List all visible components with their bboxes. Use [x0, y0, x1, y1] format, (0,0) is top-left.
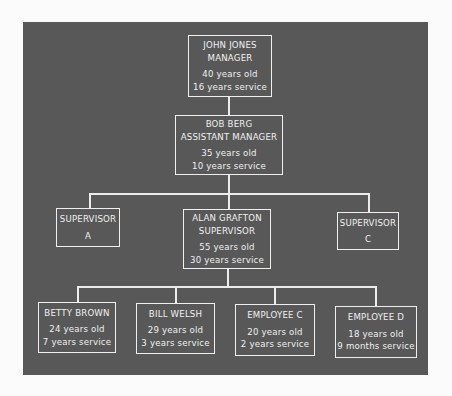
node-service: 16 years service: [193, 81, 267, 94]
connector-drop-bill: [175, 286, 177, 303]
node-employee-d: EMPLOYEE D 18 years old 9 months service: [335, 306, 417, 358]
node-age: 40 years old: [202, 68, 258, 81]
node-employee-c: EMPLOYEE C 20 years old 2 years service: [235, 304, 315, 356]
node-service: 9 months service: [337, 340, 414, 353]
node-age: 20 years old: [247, 326, 303, 339]
node-name: EMPLOYEE C: [247, 309, 303, 322]
node-title: ASSISTANT MANAGER: [181, 131, 278, 144]
node-service: 30 years service: [190, 254, 264, 267]
node-service: 10 years service: [192, 160, 266, 173]
node-name: BOB BERG: [206, 118, 253, 131]
node-age: 35 years old: [201, 147, 257, 160]
node-service: 7 years service: [43, 336, 111, 349]
node-age: 18 years old: [348, 328, 404, 341]
node-employee-betty-brown: BETTY BROWN 24 years old 7 years service: [38, 302, 116, 353]
node-assistant-manager: BOB BERG ASSISTANT MANAGER 35 years old …: [175, 115, 283, 175]
node-label: C: [365, 233, 371, 246]
node-supervisor-c: SUPERVISOR C: [337, 212, 399, 250]
connector-drop-employee-c: [274, 286, 276, 304]
node-title: MANAGER: [208, 52, 253, 65]
connector-drop-supervisor-c: [368, 193, 370, 212]
node-name: BETTY BROWN: [44, 307, 109, 320]
node-supervisor-alan-grafton: ALAN GRAFTON SUPERVISOR 55 years old 30 …: [183, 209, 271, 269]
connector-drop-employee-d: [375, 286, 377, 306]
connector-drop-betty: [77, 286, 79, 302]
connector-supervisors-horizontal: [89, 193, 370, 195]
node-name: EMPLOYEE D: [348, 311, 404, 324]
node-service: 2 years service: [241, 338, 309, 351]
node-age: 29 years old: [148, 324, 204, 337]
node-name: ALAN GRAFTON: [192, 212, 262, 225]
node-manager: JOHN JONES MANAGER 40 years old 16 years…: [188, 35, 272, 97]
connector-drop-supervisor-a: [89, 193, 91, 208]
connector-assistant-to-supervisors: [228, 175, 230, 209]
connector-manager-to-assistant: [228, 97, 230, 115]
node-age: 55 years old: [199, 241, 255, 254]
node-employee-bill-welsh: BILL WELSH 29 years old 3 years service: [136, 303, 215, 354]
node-label: A: [85, 230, 91, 243]
node-title: SUPERVISOR: [199, 225, 255, 238]
node-title: SUPERVISOR: [60, 213, 116, 226]
node-title: SUPERVISOR: [340, 217, 396, 230]
node-service: 3 years service: [141, 337, 209, 350]
node-name: BILL WELSH: [149, 308, 202, 321]
connector-grafton-to-employees: [227, 269, 229, 287]
node-name: JOHN JONES: [203, 39, 257, 52]
node-supervisor-a: SUPERVISOR A: [56, 208, 120, 247]
connector-employees-horizontal: [77, 286, 376, 288]
node-age: 24 years old: [49, 323, 105, 336]
